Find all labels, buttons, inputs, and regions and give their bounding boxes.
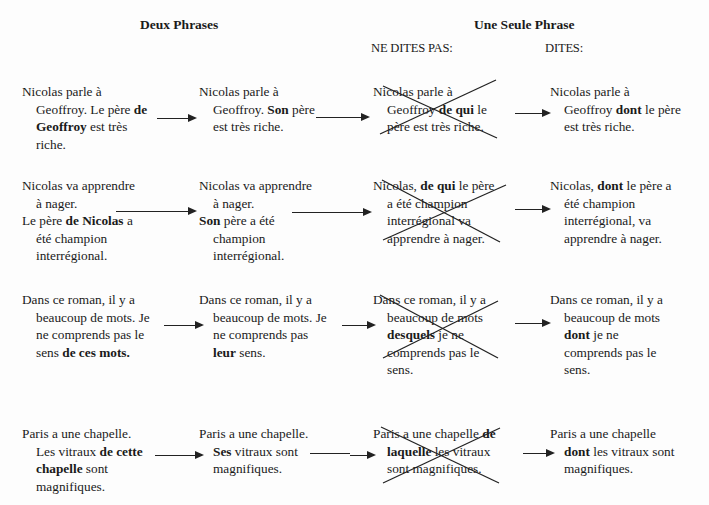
cross-out-row4	[0, 0, 709, 505]
